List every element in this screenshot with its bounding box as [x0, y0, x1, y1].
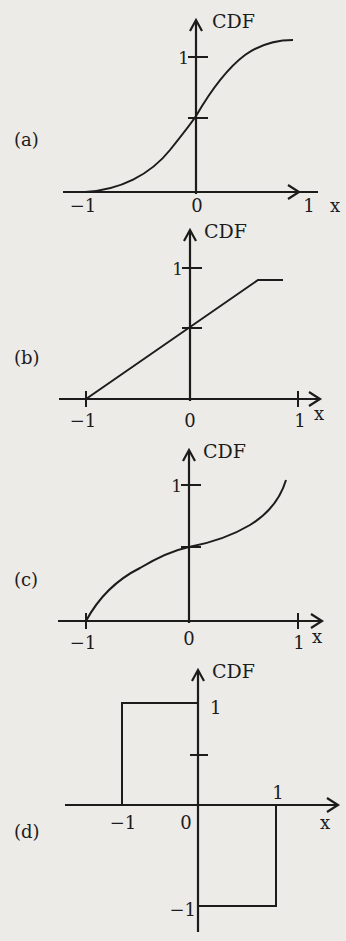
cdf-figure: CDF 1 (a) −1 0 1 x CDF 1 (b) −1 0 1 x: [0, 0, 346, 941]
x-tick-label-1: 1: [303, 195, 314, 216]
x-axis-label: x: [320, 812, 330, 833]
y-tick-label-1: 1: [210, 697, 221, 718]
x-tick-label-neg1: −1: [70, 410, 97, 431]
y-tick-label-1: 1: [171, 476, 182, 496]
panel-c: CDF 1 (c) −1 0 1 x: [14, 440, 322, 653]
x-tick-label-0: 0: [184, 410, 195, 431]
panel-b: CDF 1 (b) −1 0 1 x: [14, 220, 324, 431]
panel-label: (c): [14, 569, 38, 590]
x-axis-label: x: [312, 626, 322, 647]
x-tick-label-1: 1: [294, 410, 305, 431]
x-tick-label-neg1: −1: [70, 195, 97, 216]
panel-label: (d): [14, 821, 40, 842]
y-tick-label-1: 1: [178, 48, 189, 68]
x-tick-label-neg1: −1: [70, 632, 97, 653]
cdf-line: [86, 280, 283, 399]
x-tick-label-neg1: −1: [110, 812, 137, 833]
x-tick-label-0: 0: [191, 195, 202, 216]
x-axis-label: x: [314, 403, 324, 424]
x-tick-label-1: 1: [272, 782, 283, 803]
panel-label: (a): [14, 129, 39, 150]
y-tick-label-neg1: −1: [169, 899, 196, 920]
step-positive: [122, 703, 198, 805]
panel-a: CDF 1 (a) −1 0 1 x: [14, 10, 340, 216]
panel-d: CDF 1 −1 (d) −1 0 1 x: [14, 660, 338, 932]
x-tick-label-1: 1: [293, 632, 304, 653]
x-tick-label-0: 0: [180, 812, 191, 833]
panel-label: (b): [14, 347, 40, 368]
y-axis-label: CDF: [204, 220, 247, 242]
y-axis-label: CDF: [212, 660, 255, 682]
step-negative: [198, 805, 276, 906]
y-tick-label-1: 1: [172, 259, 183, 279]
y-axis-label: CDF: [203, 440, 246, 462]
cdf-curve: [86, 480, 286, 621]
y-axis-label: CDF: [212, 10, 255, 32]
cdf-curve: [85, 40, 293, 192]
x-axis-label: x: [330, 195, 340, 216]
x-tick-label-0: 0: [183, 628, 194, 649]
